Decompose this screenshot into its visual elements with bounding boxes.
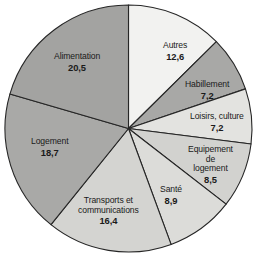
pie-slice-group [5,5,252,252]
pie-chart-figure: Autres 12,6 Habillement 7,2 Loisirs, cul… [0,0,259,258]
pie-chart-canvas [0,0,259,258]
